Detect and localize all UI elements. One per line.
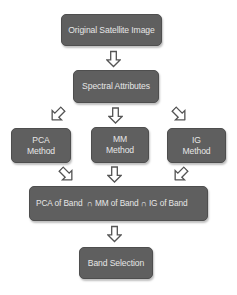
node-label-line2: Method bbox=[106, 145, 134, 156]
node-label: Band Selection bbox=[88, 258, 144, 269]
node-pca-method: PCA Method bbox=[11, 128, 71, 163]
arrow-down-icon bbox=[106, 50, 121, 68]
arrow-down-right-icon bbox=[58, 166, 75, 183]
node-spectral-attributes: Spectral Attributes bbox=[73, 70, 159, 103]
node-label: PCA of Band ∩ MM of Band ∩ IG of Band bbox=[36, 198, 188, 209]
arrow-down-left-icon bbox=[49, 106, 66, 123]
arrow-down-icon bbox=[107, 225, 122, 243]
node-label: Original Satellite Image bbox=[68, 25, 154, 36]
node-original-satellite-image: Original Satellite Image bbox=[61, 14, 162, 46]
arrow-down-icon bbox=[108, 107, 123, 124]
node-label-line1: IG bbox=[192, 135, 201, 146]
node-band-intersection: PCA of Band ∩ MM of Band ∩ IG of Band bbox=[29, 186, 208, 221]
node-label-line1: MM bbox=[113, 134, 127, 145]
arrow-down-right-icon bbox=[171, 106, 188, 123]
node-band-selection: Band Selection bbox=[79, 247, 153, 279]
node-label-line1: PCA bbox=[32, 135, 49, 146]
node-label-line2: Method bbox=[27, 146, 55, 157]
node-ig-method: IG Method bbox=[167, 128, 226, 163]
arrow-down-left-icon bbox=[172, 166, 189, 183]
node-mm-method: MM Method bbox=[91, 127, 149, 163]
node-label-line2: Method bbox=[182, 146, 210, 157]
node-label: Spectral Attributes bbox=[82, 81, 150, 92]
arrow-down-icon bbox=[107, 166, 122, 183]
